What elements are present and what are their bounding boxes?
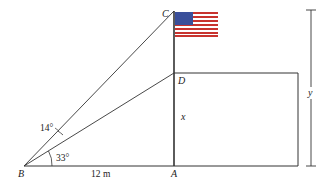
height-label-x: x bbox=[180, 111, 186, 122]
base-distance-label: 12 m bbox=[91, 169, 111, 179]
sightline-bc bbox=[24, 11, 174, 166]
angle-arc-33 bbox=[49, 151, 53, 166]
angle-pointer-14 bbox=[55, 128, 59, 131]
sightline-bd bbox=[24, 73, 174, 166]
angle-arc-14 bbox=[58, 131, 63, 135]
point-label-a: A bbox=[170, 168, 178, 179]
point-label-d: D bbox=[177, 75, 186, 86]
height-label-y: y bbox=[307, 87, 313, 98]
angle-label-14: 14° bbox=[40, 123, 54, 133]
angle-label-33: 33° bbox=[56, 153, 70, 163]
american-flag bbox=[175, 12, 218, 37]
point-label-b: B bbox=[18, 168, 24, 179]
flag-canton bbox=[175, 12, 193, 25]
flagpole-trig-diagram: B A C D x y 12 m 33° 14° bbox=[0, 0, 331, 181]
diagram-canvas: B A C D x y 12 m 33° 14° bbox=[0, 0, 331, 181]
point-label-c: C bbox=[162, 8, 169, 19]
